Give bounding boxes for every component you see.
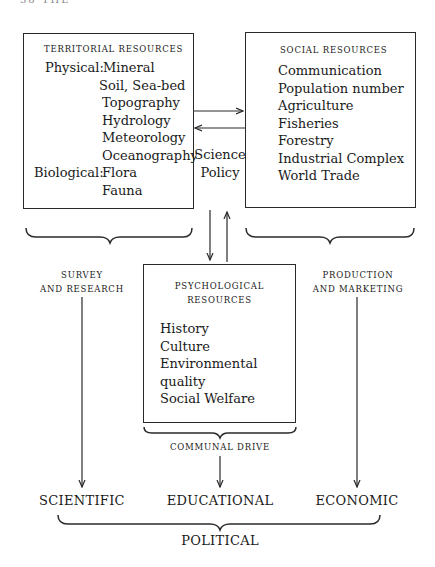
territorial-title: Territorial Resources [44,44,183,54]
psychological-title: Psychological Resources [144,279,295,307]
science-policy-line1: Science [194,146,246,164]
outcome-political: Political [150,533,290,548]
survey-line2: and Research [30,282,134,296]
biological-items: Flora Fauna [102,164,142,199]
survey-research-label: Survey and Research [30,268,134,296]
physical-items: Mineral Soil, Sea-bed Topography Hydrolo… [103,59,198,164]
social-item: Communication [278,62,404,80]
psychological-title-line2: Resources [144,293,295,307]
outcome-scientific: Scientific [22,493,142,508]
production-line2: and Marketing [306,282,410,296]
psychological-item: quality [160,373,257,391]
physical-label: Physical: [45,59,104,77]
science-policy-line2: Policy [194,164,246,182]
physical-item: Topography [102,94,198,112]
physical-item: Soil, Sea-bed [99,77,198,95]
biological-item: Fauna [102,182,142,200]
brace-political [58,515,380,530]
brace-territorial [26,228,192,243]
communal-drive-label: Communal Drive [150,440,290,454]
social-resources-box: Social Resources Communication Populatio… [245,32,416,208]
science-policy-label: Science Policy [194,146,246,181]
psychological-item: Environmental [160,355,257,373]
brace-psychological [144,427,296,438]
physical-item: Hydrology [102,112,198,130]
brace-social [246,228,414,243]
psychological-title-line1: Psychological [144,279,295,293]
social-item: Population number [278,80,404,98]
social-title: Social Resources [280,45,387,55]
psychological-item: Social Welfare [160,390,257,408]
production-line1: Production [306,268,410,282]
social-item: Industrial Complex [278,150,404,168]
physical-item: Meteorology [102,129,198,147]
psychological-item: Culture [160,338,257,356]
physical-item: Oceanography [102,147,198,165]
social-item: Agriculture [278,97,404,115]
psychological-items: History Culture Environmental quality So… [160,320,257,408]
territorial-resources-box: Territorial Resources Physical: Mineral … [23,33,194,209]
biological-item: Flora [102,164,142,182]
psychological-item: History [160,320,257,338]
survey-line1: Survey [30,268,134,282]
psychological-resources-box: Psychological Resources History Culture … [143,264,296,423]
outcome-educational: Educational [150,493,290,508]
social-item: World Trade [278,167,404,185]
social-items: Communication Population number Agricult… [278,62,404,185]
outcome-economic: Economic [297,493,417,508]
biological-label: Biological: [34,164,104,182]
social-item: Fisheries [278,115,404,133]
production-marketing-label: Production and Marketing [306,268,410,296]
social-item: Forestry [278,132,404,150]
physical-item: Mineral [103,59,198,77]
